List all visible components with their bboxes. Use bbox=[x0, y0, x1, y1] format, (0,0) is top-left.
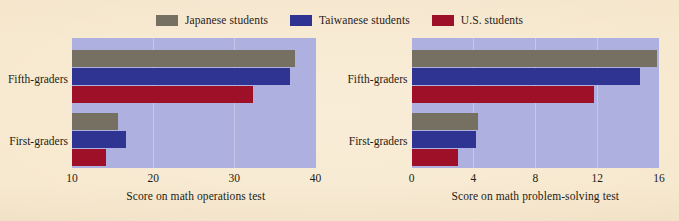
bar-fifth-graders-u-s-students bbox=[72, 86, 253, 103]
y-axis-label-fifth-graders-left: Fifth-graders bbox=[8, 73, 68, 85]
bar-fifth-graders-u-s-students bbox=[412, 86, 595, 103]
bar-first-graders-japanese-students bbox=[72, 113, 118, 130]
x-tick-label: 16 bbox=[653, 172, 665, 184]
legend-item-taiwanese: Taiwanese students bbox=[290, 14, 410, 26]
legend-swatch-us bbox=[432, 15, 454, 26]
plot-area-math-operations bbox=[72, 38, 316, 168]
chart-panels: Fifth-graders First-graders 10203040 Sco… bbox=[0, 38, 679, 213]
bar-first-graders-taiwanese-students bbox=[72, 131, 126, 148]
legend-label-us: U.S. students bbox=[461, 14, 523, 26]
x-tick-label: 20 bbox=[147, 172, 159, 184]
bar-fifth-graders-taiwanese-students bbox=[72, 68, 290, 85]
x-axis-title-math-problem-solving: Score on math problem-solving test bbox=[412, 190, 660, 202]
legend-item-japanese: Japanese students bbox=[156, 14, 268, 26]
x-tick-label: 10 bbox=[66, 172, 78, 184]
bar-first-graders-u-s-students bbox=[412, 149, 458, 166]
x-axis-ticks-math-operations: 10203040 bbox=[72, 168, 316, 190]
chart-panel-math-operations: Fifth-graders First-graders 10203040 Sco… bbox=[0, 38, 340, 213]
x-axis-ticks-math-problem-solving: 0481216 bbox=[412, 168, 660, 190]
x-tick-label: 12 bbox=[591, 172, 603, 184]
y-axis-labels-right: Fifth-graders First-graders bbox=[340, 38, 412, 168]
x-tick-label: 40 bbox=[310, 172, 322, 184]
bar-fifth-graders-japanese-students bbox=[72, 50, 295, 67]
x-tick-label: 4 bbox=[471, 172, 477, 184]
y-axis-label-first-graders-left: First-graders bbox=[9, 135, 68, 147]
bar-first-graders-u-s-students bbox=[72, 149, 106, 166]
plot-area-math-problem-solving bbox=[412, 38, 660, 168]
x-tick-label: 30 bbox=[229, 172, 241, 184]
chart-panel-math-problem-solving: Fifth-graders First-graders 0481216 Scor… bbox=[340, 38, 679, 213]
legend-label-taiwanese: Taiwanese students bbox=[319, 14, 410, 26]
x-tick-label: 8 bbox=[532, 172, 538, 184]
y-axis-labels-left: Fifth-graders First-graders bbox=[0, 38, 72, 168]
y-axis-label-first-graders-right: First-graders bbox=[349, 135, 408, 147]
legend-swatch-taiwanese bbox=[290, 15, 312, 26]
legend-item-us: U.S. students bbox=[432, 14, 523, 26]
y-axis-label-fifth-graders-right: Fifth-graders bbox=[347, 73, 407, 85]
legend-swatch-japanese bbox=[156, 15, 178, 26]
x-axis-title-math-operations: Score on math operations test bbox=[72, 190, 320, 202]
x-tick-label: 0 bbox=[409, 172, 415, 184]
legend-label-japanese: Japanese students bbox=[185, 14, 268, 26]
bar-first-graders-japanese-students bbox=[412, 113, 479, 130]
bar-fifth-graders-japanese-students bbox=[412, 50, 658, 67]
figure-container: Japanese students Taiwanese students U.S… bbox=[0, 0, 679, 221]
bar-fifth-graders-taiwanese-students bbox=[412, 68, 641, 85]
bar-first-graders-taiwanese-students bbox=[412, 131, 477, 148]
chart-legend: Japanese students Taiwanese students U.S… bbox=[0, 14, 679, 26]
